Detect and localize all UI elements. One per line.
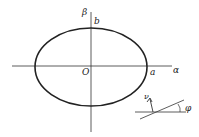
- tangent-line: [140, 100, 184, 119]
- phi-label: φ: [185, 104, 191, 113]
- angle-arc: [178, 104, 180, 112]
- b-label: b: [94, 17, 100, 26]
- nu-label: ν: [144, 93, 149, 101]
- beta-label: β: [82, 8, 87, 17]
- alpha-label: α: [173, 66, 179, 75]
- a-label: a: [150, 68, 155, 77]
- origin-label: O: [82, 68, 89, 77]
